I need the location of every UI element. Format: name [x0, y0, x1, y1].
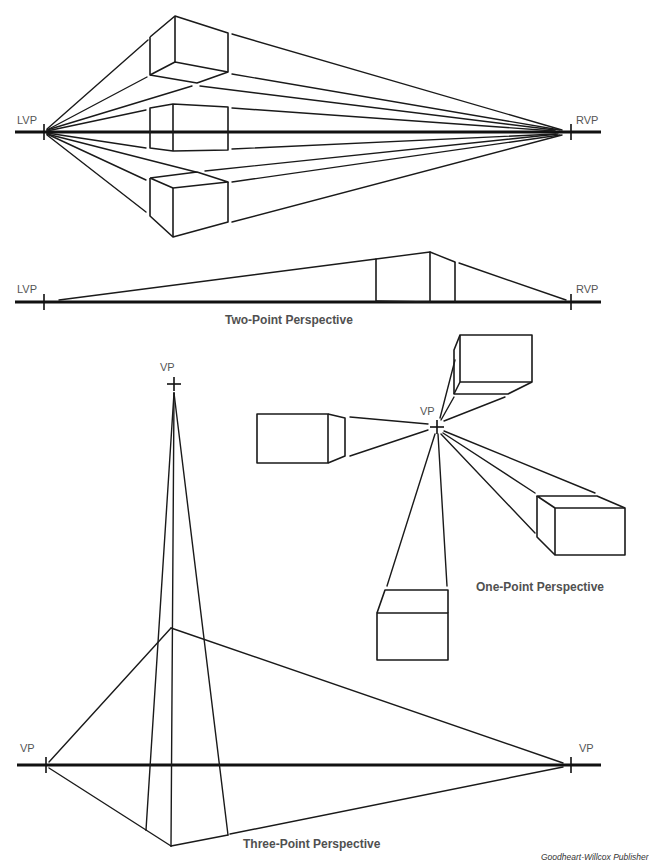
two-point-bottom-diagram — [15, 252, 601, 310]
one-point-vp-label: VP — [420, 405, 435, 417]
three-point-diagram — [17, 377, 601, 846]
two-point-box-on-horizon — [150, 104, 228, 151]
one-point-box-right — [441, 431, 625, 555]
one-point-diagram — [257, 335, 625, 660]
one-point-box-bottom — [377, 434, 448, 660]
lvp-label: LVP — [17, 114, 37, 126]
two-point-box-above — [150, 16, 228, 83]
three-point-top-vp-label: VP — [160, 361, 175, 373]
one-point-caption: One-Point Perspective — [476, 580, 604, 594]
publisher-credit: Goodheart-Willcox Publisher — [541, 852, 649, 862]
one-point-box-top — [440, 335, 532, 421]
two-point-top-diagram — [15, 16, 601, 237]
rvp-label: RVP — [576, 114, 598, 126]
three-point-left-vp-label: VP — [20, 742, 35, 754]
one-point-box-left — [257, 414, 428, 463]
lvp-label-2: LVP — [17, 283, 37, 295]
two-point-box-below — [150, 172, 228, 237]
rvp-label-2: RVP — [576, 283, 598, 295]
rvp-construction-lines — [200, 34, 562, 222]
three-point-caption: Three-Point Perspective — [243, 837, 380, 851]
three-point-right-vp-label: VP — [579, 742, 594, 754]
two-point-caption: Two-Point Perspective — [225, 313, 353, 327]
